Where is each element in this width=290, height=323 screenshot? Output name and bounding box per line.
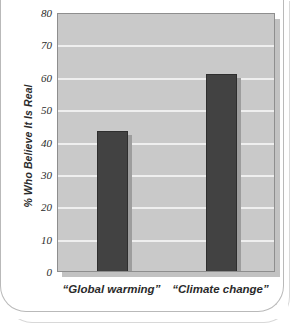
- y-axis-tick-label: 40: [22, 137, 52, 148]
- gridline: [58, 110, 274, 112]
- gridline: [58, 45, 274, 47]
- y-axis-tick-label: 60: [22, 72, 52, 83]
- x-axis-tick-label: “Global warming”: [63, 283, 161, 295]
- gridline: [58, 78, 274, 80]
- y-axis-tick-label: 50: [22, 105, 52, 116]
- y-axis-tick-labels: 01020304050607080: [22, 13, 52, 272]
- x-axis-tick-label: “Climate change”: [172, 283, 269, 295]
- gridline: [58, 175, 274, 177]
- gridline: [58, 207, 274, 209]
- bar-chart-figure: % Who Believe It Is Real 010203040506070…: [0, 0, 288, 319]
- x-axis-tick-labels: “Global warming”“Climate change”: [57, 283, 275, 305]
- gridline: [58, 143, 274, 145]
- y-axis-tick-label: 30: [22, 169, 52, 180]
- y-axis-tick-label: 0: [22, 267, 52, 278]
- bar: [206, 74, 237, 272]
- gridline: [58, 240, 274, 242]
- y-axis-tick-label: 80: [22, 8, 52, 19]
- plot-area: [57, 13, 275, 272]
- bar: [97, 131, 128, 272]
- y-axis-tick-label: 20: [22, 202, 52, 213]
- y-axis-tick-label: 70: [22, 40, 52, 51]
- y-axis-tick-label: 10: [22, 234, 52, 245]
